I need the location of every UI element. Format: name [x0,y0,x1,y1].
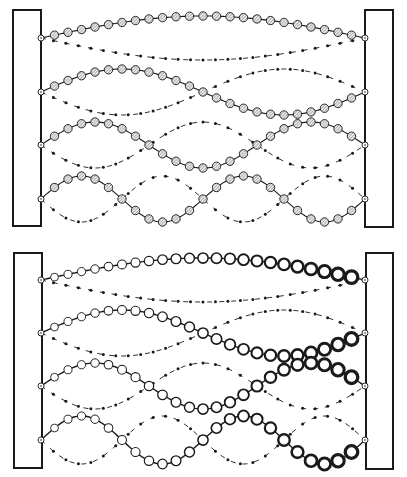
bead [50,132,58,140]
bead [199,195,207,203]
dashed-curve-dot [314,47,317,50]
bead [185,206,193,214]
dashed-curve-dot [251,219,254,222]
dashed-curve-dot [89,461,92,464]
bead [239,13,247,21]
dashed-curve-dot [351,187,354,190]
dashed-curve-dot [214,58,217,61]
dashed-curve-dot [114,162,117,165]
dashed-curve-dot [351,326,354,329]
dashed-curve-dot [276,53,279,56]
bead [158,150,166,158]
anchor-center-dot [40,144,42,146]
dashed-curve-dot [89,219,92,222]
bead [305,455,317,467]
bead [238,411,249,422]
dashed-curve-dot [202,301,205,304]
bead [104,183,112,191]
bead [104,120,112,128]
dashed-curve-dot [289,192,292,195]
bead [199,164,207,172]
bead [91,175,99,183]
dashed-curve-dot [202,362,205,365]
bead [172,157,180,165]
bead [345,271,358,284]
bead [91,23,99,31]
bead [172,13,180,21]
bead [239,172,247,180]
dashed-curve-dot [264,149,267,152]
bead [185,447,195,457]
dashed-curve-dot [139,149,142,152]
dashed-curve-dot [214,122,217,125]
bead [104,262,113,271]
dashed-curve-dot [301,407,304,410]
dashed-curve-dot [114,354,117,357]
bead [172,76,180,84]
bead [77,25,85,33]
bead [131,132,139,140]
dashed-curve-dot [239,220,242,223]
bead [251,255,262,266]
bead [345,371,358,384]
bead [280,195,288,203]
dashed-curve-dot [301,69,304,72]
bead [158,390,168,400]
anchor-center-dot [40,439,42,441]
dashed-curve-dot [276,157,279,160]
bead [225,414,236,425]
anchor-center-dot [364,37,366,39]
bead [347,94,355,102]
dashed-curve-dot [139,182,142,185]
dashed-curve-dot [264,69,267,72]
mode-2 [38,306,368,362]
dashed-curve-dot [289,68,292,71]
bead [238,389,249,400]
bead [64,270,72,278]
bead [51,323,59,331]
dashed-curve-dot [314,72,317,75]
dashed-curve-dot [177,126,180,129]
bead [118,260,127,269]
bead [307,108,315,116]
bead [185,12,193,20]
bead [185,322,195,332]
dashed-curve-dot [139,55,142,58]
dashed-curve-dot [152,416,155,419]
dashed-curve-dot [64,159,67,162]
dashed-curve-dot [52,281,55,284]
bead [118,18,126,26]
dashed-curve-dot [251,298,254,301]
bead [332,364,344,376]
mode-1 [38,12,368,62]
bead [292,359,304,371]
bead [131,206,139,214]
bead [158,72,166,80]
dashed-curve-dot [77,405,80,408]
bead [278,350,290,362]
dashed-curve-dot [239,57,242,60]
bead [266,110,274,118]
dashed-curve-dot [276,203,279,206]
dashed-curve-dot [351,393,354,396]
bead [131,16,139,24]
dashed-curve-dot [102,112,105,115]
bead [265,257,276,268]
dashed-curve-dot [52,393,55,396]
bead [64,28,72,36]
dashed-curve-dot [102,454,105,457]
bead [185,82,193,90]
dashed-curve-dot [177,419,180,422]
dashed-curve-dot [301,291,304,294]
bead [64,317,72,325]
bead [77,313,85,321]
bead [239,104,247,112]
dashed-curve-dot [314,313,317,316]
wall-left [13,10,41,226]
bead [238,254,249,265]
dashed-curve-dot [189,58,192,61]
dashed-curve-dot [164,133,167,136]
bead [226,99,234,107]
anchor-center-dot [40,279,42,281]
dashed-curve-dot [77,462,80,465]
